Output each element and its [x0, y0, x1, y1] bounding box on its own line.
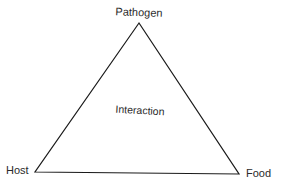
center-label-interaction: Interaction [115, 104, 165, 117]
vertex-label-food: Food [246, 168, 271, 179]
triangle-outline [35, 23, 239, 174]
disease-triangle-diagram: Pathogen Host Food Interaction [0, 0, 281, 186]
triangle-shape [0, 0, 281, 186]
vertex-label-pathogen: Pathogen [115, 6, 162, 19]
vertex-label-host: Host [6, 165, 29, 176]
